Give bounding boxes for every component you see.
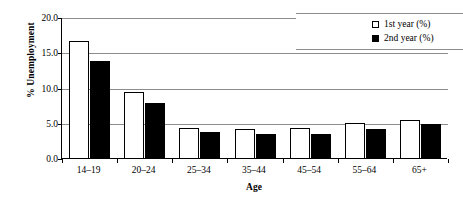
y-axis-tick-label: 10.0 [28,84,58,94]
bar [145,103,165,159]
x-axis-tick-label: 25–34 [171,165,226,175]
bar [256,134,276,159]
bar [179,128,199,159]
bar [311,134,331,159]
bar [400,120,420,159]
legend-item-1st-year: 1st year (%) [296,17,463,31]
y-axis-tick-label: 5.0 [28,119,58,129]
y-axis-tick-label: 20.0 [28,13,58,23]
bar [90,61,110,159]
x-tick-mark [393,159,394,163]
bar [200,132,220,159]
filled-square-icon [372,35,379,42]
x-axis-tick-label: 55–64 [337,165,392,175]
x-tick-mark [227,159,228,163]
x-tick-mark [62,159,63,163]
x-axis-tick-label: 14–19 [61,165,116,175]
bar [235,129,255,159]
x-axis-tick-label: 45–54 [282,165,337,175]
bar [345,123,365,159]
bar [366,129,386,159]
bar-group [69,18,110,159]
x-tick-mark [172,159,173,163]
x-tick-mark [448,159,449,163]
y-axis-tick-label: 0.0 [28,154,58,164]
x-tick-mark [283,159,284,163]
legend: 1st year (%) 2nd year (%) [296,13,463,50]
unemployment-by-age-bar-chart: % Unemployment 0.05.010.015.020.0 14–192… [0,0,463,203]
x-axis-tick-label: 20–24 [116,165,171,175]
bar-group [235,18,276,159]
x-tick-mark [338,159,339,163]
x-axis-tick-label: 65+ [392,165,447,175]
bar-group [124,18,165,159]
legend-label: 2nd year (%) [384,33,434,43]
x-tick-mark [117,159,118,163]
bar [124,92,144,159]
open-square-icon [372,21,379,28]
bar [69,41,89,159]
y-axis-tick-label: 15.0 [28,48,58,58]
y-axis-tick-labels: 0.05.010.015.020.0 [27,0,58,203]
bar [421,124,441,159]
bar-group [179,18,220,159]
legend-label: 1st year (%) [384,19,430,29]
x-axis-tick-label: 35–44 [226,165,281,175]
bar [290,128,310,159]
x-axis-title: Age [61,182,447,192]
legend-item-2nd-year: 2nd year (%) [296,31,463,45]
